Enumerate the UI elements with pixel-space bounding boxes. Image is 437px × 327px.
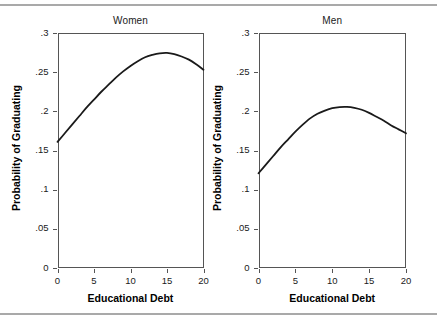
y-tick-label: .1 <box>217 183 250 194</box>
x-tick-mark <box>332 269 333 273</box>
figure-root: Women Probability of Graduating Educatio… <box>0 0 437 327</box>
fitted-curve-line <box>259 107 407 173</box>
y-tick-label: .2 <box>217 105 250 116</box>
x-tick-label: 20 <box>391 275 421 286</box>
y-tick-mark <box>254 151 258 152</box>
x-tick-label: 15 <box>354 275 384 286</box>
y-tick-label: .25 <box>217 66 250 77</box>
y-tick-label: .3 <box>217 27 250 38</box>
x-tick-mark <box>259 269 260 273</box>
y-tick-mark <box>254 72 258 73</box>
y-tick-mark <box>254 268 258 269</box>
x-tick-label: 10 <box>317 275 347 286</box>
y-tick-mark <box>254 229 258 230</box>
y-tick-label: .15 <box>217 144 250 155</box>
y-tick-label: 0 <box>217 262 250 273</box>
x-tick-mark <box>406 269 407 273</box>
y-tick-mark <box>254 190 258 191</box>
y-tick-mark <box>254 111 258 112</box>
y-tick-label: .05 <box>217 222 250 233</box>
x-tick-mark <box>295 269 296 273</box>
x-tick-label: 5 <box>280 275 310 286</box>
y-tick-mark <box>254 33 258 34</box>
x-tick-mark <box>369 269 370 273</box>
x-tick-label: 0 <box>244 275 274 286</box>
